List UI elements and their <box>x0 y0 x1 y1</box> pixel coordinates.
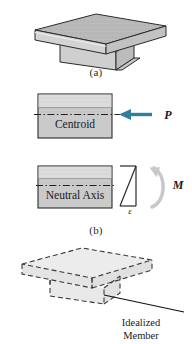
axial-force-arrow <box>119 109 152 120</box>
beam-flange-slab <box>35 14 166 54</box>
panel-a-solid-beam: (a) <box>0 0 192 86</box>
panel-d-idealized-member: Idealized Member (d) <box>0 238 192 344</box>
idealized-member-illustration: Idealized Member <box>0 238 192 344</box>
axial-force-label: P <box>164 108 172 122</box>
idealized-member-label-line2: Member <box>123 330 159 341</box>
neutral-axis-illustration: Neutral Axis ε M <box>0 160 192 238</box>
panel-b-centroid-section: Centroid P (b) <box>0 86 192 160</box>
bending-moment-arrow <box>147 163 163 207</box>
centroid-section-illustration: Centroid P <box>0 86 192 160</box>
panel-c-neutral-axis-section: Neutral Axis ε M (c) <box>0 160 192 238</box>
neutral-axis-label: Neutral Axis <box>46 189 105 201</box>
idealized-member-leader-line <box>104 295 184 312</box>
cross-section-rectangle <box>38 94 112 138</box>
composite-beam-figure: (a) Centroid <box>0 0 192 344</box>
cross-section-rectangle <box>38 166 112 208</box>
bending-moment-label: M <box>172 178 184 192</box>
idealized-member-label-line1: Idealized <box>122 317 161 328</box>
strain-label: ε <box>128 206 132 216</box>
panel-a-caption: (a) <box>0 66 192 78</box>
strain-distribution-diagram <box>120 166 136 206</box>
centroid-label: Centroid <box>55 118 95 130</box>
